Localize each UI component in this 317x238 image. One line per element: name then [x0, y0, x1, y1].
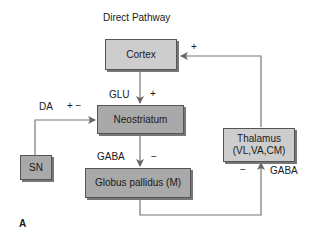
gaba-sign-gp: − — [240, 164, 246, 175]
gaba-sign-neostriatum: − — [151, 151, 157, 162]
diagram-title: Direct Pathway — [103, 12, 170, 23]
panel-label: A — [19, 218, 26, 229]
thalamus-node: Thalamus (VL,VA,CM) — [223, 128, 295, 162]
neostriatum-node: Neostriatum — [97, 105, 184, 134]
glu-sign: + — [150, 88, 156, 99]
gaba-label-gp: GABA — [270, 165, 298, 176]
sn-node: SN — [20, 155, 52, 180]
thalamus-nuclei-label: (VL,VA,CM) — [233, 145, 286, 157]
gaba-label-neostriatum: GABA — [97, 151, 125, 162]
cortex-node: Cortex — [105, 39, 177, 70]
thalamus-label: Thalamus — [237, 133, 281, 145]
da-sign: + − — [67, 100, 81, 111]
glu-label: GLU — [109, 89, 130, 100]
globus-pallidus-node: Globus pallidus (M) — [85, 168, 191, 198]
thalamus-cortex-sign: + — [191, 41, 197, 52]
da-label: DA — [39, 101, 53, 112]
